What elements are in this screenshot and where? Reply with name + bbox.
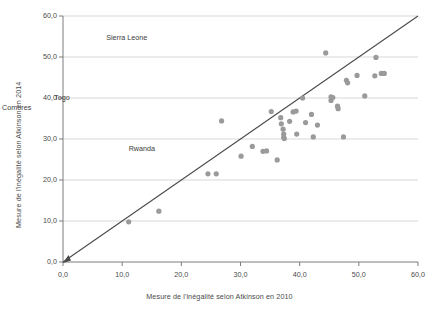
data-point — [205, 171, 210, 176]
point-label: Comores — [2, 103, 31, 112]
data-point — [214, 171, 219, 176]
data-point — [341, 134, 346, 139]
point-label: Sierra Leone — [106, 33, 147, 42]
data-point — [309, 112, 314, 117]
data-point — [362, 93, 367, 98]
data-point — [275, 157, 280, 162]
data-point — [336, 106, 341, 111]
point-label: Rwanda — [129, 144, 155, 153]
data-point — [278, 115, 283, 120]
data-point — [250, 144, 255, 149]
point-label: Togo — [54, 93, 70, 102]
data-point — [219, 118, 224, 123]
data-point — [294, 109, 299, 114]
data-point — [311, 134, 316, 139]
data-point — [264, 148, 269, 153]
scatter-chart: Mesure de l'inégalité selon Atkinson en … — [0, 0, 439, 313]
plot-area — [0, 0, 439, 313]
data-point — [287, 119, 292, 124]
data-point — [373, 55, 378, 60]
data-point — [330, 95, 335, 100]
data-point — [345, 80, 350, 85]
data-point — [126, 219, 131, 224]
data-points — [126, 50, 387, 224]
data-point — [382, 71, 387, 76]
reference-line-45deg — [63, 16, 418, 263]
data-point — [238, 154, 243, 159]
data-point — [269, 109, 274, 114]
data-point — [281, 127, 286, 132]
data-point — [282, 136, 287, 141]
data-point — [372, 73, 377, 78]
data-point — [315, 122, 320, 127]
data-point — [300, 95, 305, 100]
data-point — [303, 120, 308, 125]
data-point — [279, 121, 284, 126]
data-point — [354, 73, 359, 78]
data-point — [156, 209, 161, 214]
data-point — [323, 50, 328, 55]
data-point — [294, 131, 299, 136]
